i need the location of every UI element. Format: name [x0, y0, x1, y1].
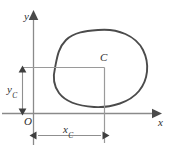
x-dimension-arrowhead-right-icon [103, 132, 110, 140]
y-axis-label: y [24, 11, 29, 22]
figure-canvas: y x C O yC xC [0, 0, 170, 159]
x-dimension-label-subscript: C [68, 131, 73, 140]
origin-label: O [24, 116, 32, 127]
centroid-point-label: C [100, 52, 107, 63]
x-axis-label: x [158, 117, 163, 128]
y-axis-arrowhead-icon [29, 10, 39, 20]
centroid-diagram-svg [0, 0, 170, 159]
closed-region-curve [54, 30, 147, 107]
y-dimension-label-subscript: C [12, 91, 17, 100]
y-dimension-arrowhead-top-icon [19, 66, 27, 73]
x-dimension-label: xC [63, 124, 73, 138]
y-dimension-label: yC [7, 84, 17, 98]
